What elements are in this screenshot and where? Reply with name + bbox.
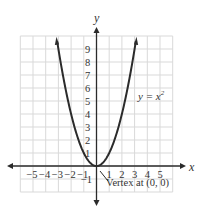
svg-text:−5: −5 [26, 169, 37, 180]
svg-text:9: 9 [85, 44, 90, 55]
equation-label: y = x2 [137, 89, 165, 102]
svg-text:1: 1 [85, 148, 90, 159]
svg-text:2: 2 [85, 135, 90, 146]
svg-text:6: 6 [85, 83, 90, 94]
svg-text:3: 3 [85, 122, 90, 133]
y-axis-label: y [93, 11, 100, 25]
svg-text:7: 7 [85, 70, 90, 81]
svg-text:4: 4 [85, 109, 91, 120]
svg-text:−4: −4 [39, 169, 51, 180]
x-axis-label: x [188, 160, 195, 174]
svg-text:−2: −2 [65, 169, 76, 180]
svg-text:5: 5 [85, 96, 90, 107]
svg-text:−3: −3 [52, 169, 63, 180]
vertex-annotation: Vertex at (0, 0) [106, 177, 169, 189]
svg-text:−1: −1 [81, 174, 92, 185]
svg-text:8: 8 [85, 57, 90, 68]
parabola-chart: −5−4−3−2−112345123456789−1 x y y = x2 Ve… [0, 0, 203, 209]
